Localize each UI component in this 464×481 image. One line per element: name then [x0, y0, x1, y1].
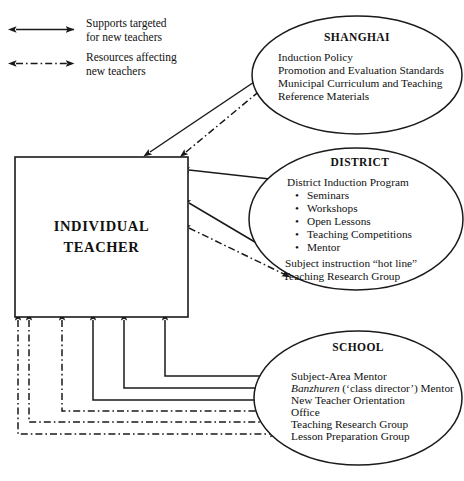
individual-teacher-node: INDIVIDUAL TEACHER: [15, 157, 188, 317]
school-banzhuren-italic: Banzhuren: [291, 382, 340, 394]
shanghai-title: SHANGHAI: [324, 31, 390, 43]
school-line-research-group: Teaching Research Group: [291, 418, 409, 430]
individual-teacher-title-line2: TEACHER: [64, 239, 140, 255]
legend-dashdot-label-line2: new teachers: [86, 65, 146, 77]
district-bullet-glyph-3: •: [295, 215, 299, 227]
connectors-school: [18, 320, 286, 434]
district-bullet-4: Teaching Competitions: [307, 228, 412, 240]
legend-item-solid: Supports targeted for new teachers: [16, 17, 167, 43]
district-bullet-glyph-1: •: [295, 189, 299, 201]
connector-teacher-school-office: [62, 320, 282, 411]
district-bullet-glyph-4: •: [295, 228, 299, 240]
school-line-office: Office: [291, 406, 320, 418]
school-line-subject-area-mentor: Subject-Area Mentor: [291, 370, 387, 382]
figure-canvas: Supports targeted for new teachers Resou…: [0, 0, 464, 481]
individual-teacher-title-line1: INDIVIDUAL: [54, 218, 149, 234]
connector-teacher-shanghai-solid: [150, 74, 266, 152]
school-title: SCHOOL: [332, 341, 384, 353]
school-line-lesson-prep: Lesson Preparation Group: [291, 430, 410, 442]
district-line-hotline: Subject instruction “hot line”: [285, 257, 417, 269]
connector-teacher-shanghai-dashdot: [186, 84, 268, 152]
shanghai-line-2: Promotion and Evaluation Standards: [278, 64, 444, 76]
legend: Supports targeted for new teachers Resou…: [16, 17, 177, 77]
school-line-orientation: New Teacher Orientation: [291, 394, 405, 406]
shanghai-line-1: Induction Policy: [278, 51, 353, 63]
connector-teacher-school-lesson-prep: [18, 320, 278, 434]
district-title: DISTRICT: [331, 156, 390, 168]
shanghai-node: SHANGHAI Induction Policy Promotion and …: [252, 16, 462, 134]
district-bullet-1: Seminars: [307, 189, 349, 201]
district-bullet-5: Mentor: [307, 241, 340, 253]
shanghai-line-3: Municipal Curriculum and Teaching: [278, 77, 443, 89]
bottom-caption-strip: [0, 471, 464, 481]
district-line-research-group: Teaching Research Group: [283, 270, 401, 282]
individual-teacher-box: [15, 157, 188, 317]
shanghai-line-4: Reference Materials: [278, 90, 369, 102]
school-node: SCHOOL Subject-Area Mentor Banzhuren (‘c…: [254, 331, 462, 465]
connector-teacher-school-research-group: [29, 320, 280, 422]
district-bullet-glyph-2: •: [295, 202, 299, 214]
district-bullet-glyph-5: •: [295, 241, 299, 253]
legend-item-dashdot: Resources affecting new teachers: [16, 51, 177, 77]
diagram-svg: Supports targeted for new teachers Resou…: [0, 0, 464, 481]
district-bullet-2: Workshops: [307, 202, 358, 214]
legend-solid-label-line2: for new teachers: [86, 31, 163, 43]
legend-dashdot-label-line1: Resources affecting: [86, 51, 177, 64]
district-node: DISTRICT District Induction Program • Se…: [249, 148, 463, 290]
legend-solid-label-line1: Supports targeted: [86, 17, 167, 30]
district-line-program: District Induction Program: [287, 176, 409, 188]
district-bullet-3: Open Lessons: [307, 215, 371, 227]
